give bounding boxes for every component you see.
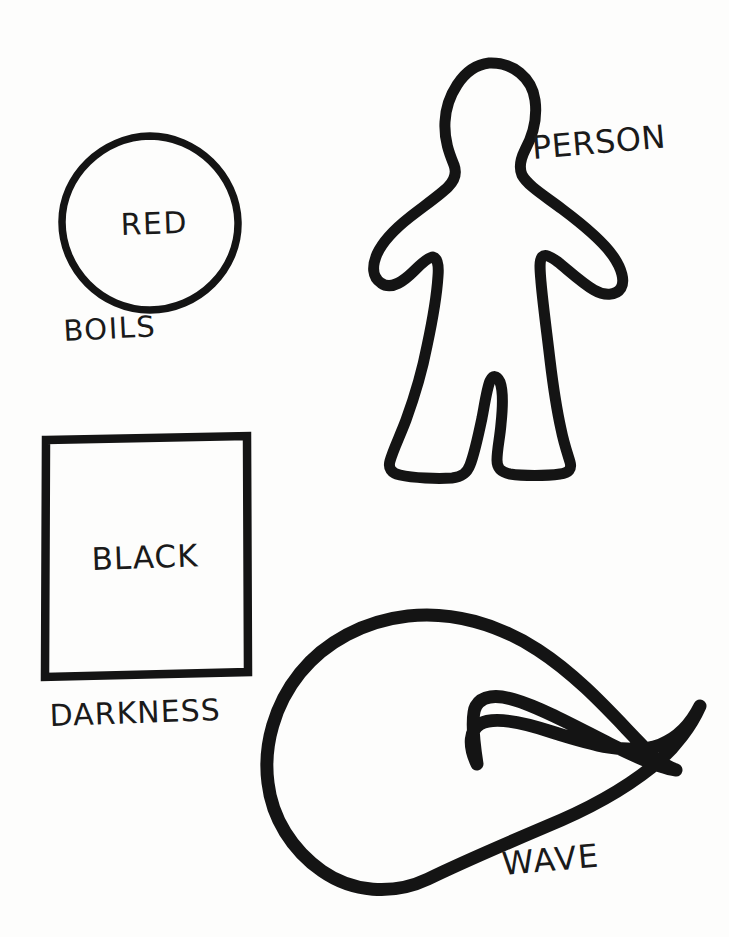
label-black: BLACK: [91, 537, 199, 577]
label-boils: BOILS: [63, 309, 157, 348]
drawing-canvas: RED BOILS PERSON BLACK DARKNESS WAVE: [0, 0, 729, 937]
label-red: RED: [120, 205, 189, 242]
label-darkness: DARKNESS: [49, 692, 221, 733]
drawing-page: RED BOILS PERSON BLACK DARKNESS WAVE: [0, 0, 729, 937]
